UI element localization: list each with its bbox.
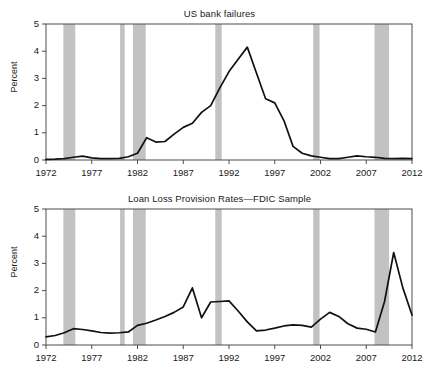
data-series-line: [46, 47, 412, 159]
x-tick-label: 2007: [356, 167, 377, 178]
x-tick-label: 1987: [173, 352, 194, 363]
x-tick-label: 1982: [127, 167, 148, 178]
x-tick-label: 1972: [35, 352, 56, 363]
recession-shaded-band: [63, 24, 75, 160]
y-tick-label: 3: [34, 72, 39, 83]
x-tick-label: 1972: [35, 167, 56, 178]
plot-frame: [46, 24, 412, 160]
y-tick-label: 5: [34, 18, 39, 29]
y-tick-label: 2: [34, 99, 39, 110]
x-tick-label: 1992: [218, 167, 239, 178]
y-tick-label: 1: [34, 311, 39, 322]
figure-root: US bank failures Percent 012345197219771…: [0, 0, 439, 371]
recession-shaded-band: [215, 209, 221, 345]
x-tick-label: 1992: [218, 352, 239, 363]
recession-shaded-band: [374, 24, 389, 160]
x-tick-label: 2012: [401, 167, 422, 178]
y-tick-label: 2: [34, 284, 39, 295]
y-tick-label: 3: [34, 257, 39, 268]
y-tick-label: 0: [34, 339, 39, 350]
recession-shaded-band: [120, 24, 125, 160]
chart-panel-loan-loss-provision-rates: Loan Loss Provision Rates—FDIC Sample Pe…: [0, 185, 439, 371]
data-series-line: [46, 253, 412, 337]
x-tick-label: 1977: [81, 167, 102, 178]
x-tick-label: 2002: [310, 352, 331, 363]
y-tick-label: 4: [34, 45, 39, 56]
plot-area-loan-loss-provision-rates: 0123451972197719821987199219972002200720…: [0, 185, 439, 371]
x-tick-label: 2002: [310, 167, 331, 178]
recession-shaded-band: [313, 24, 319, 160]
x-tick-label: 1987: [173, 167, 194, 178]
y-tick-label: 4: [34, 230, 39, 241]
recession-shaded-band: [63, 209, 75, 345]
chart-panel-us-bank-failures: US bank failures Percent 012345197219771…: [0, 0, 439, 186]
x-tick-label: 1997: [264, 167, 285, 178]
recession-shaded-band: [133, 24, 146, 160]
x-tick-label: 2007: [356, 352, 377, 363]
x-tick-label: 1982: [127, 352, 148, 363]
recession-shaded-band: [374, 209, 389, 345]
y-tick-label: 1: [34, 126, 39, 137]
y-tick-label: 5: [34, 203, 39, 214]
recession-shaded-band: [120, 209, 125, 345]
plot-area-us-bank-failures: 0123451972197719821987199219972002200720…: [0, 0, 439, 186]
x-tick-label: 1997: [264, 352, 285, 363]
x-tick-label: 1977: [81, 352, 102, 363]
y-tick-label: 0: [34, 154, 39, 165]
x-tick-label: 2012: [401, 352, 422, 363]
plot-frame: [46, 209, 412, 345]
